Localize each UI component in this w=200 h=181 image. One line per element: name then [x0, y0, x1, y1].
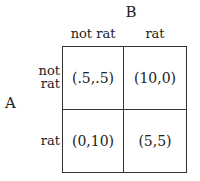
player-a-label: A — [5, 94, 16, 112]
player-b-label: B — [116, 3, 146, 21]
cell-rat-notrat: (0,10) — [62, 110, 124, 172]
row-label-line1: rat — [34, 134, 60, 147]
row-label-not-rat: not rat — [34, 64, 60, 90]
cell-notrat-notrat: (.5,.5) — [62, 47, 124, 109]
payoff-matrix: (.5,.5) (10,0) (0,10) (5,5) — [62, 46, 186, 173]
grid-border-bottom — [62, 172, 187, 173]
cell-notrat-rat: (10,0) — [124, 47, 186, 109]
row-label-rat: rat — [34, 134, 60, 147]
row-label-line2: rat — [34, 77, 60, 90]
cell-rat-rat: (5,5) — [124, 110, 186, 172]
column-label-rat: rat — [124, 26, 186, 41]
column-label-not-rat: not rat — [62, 26, 124, 41]
